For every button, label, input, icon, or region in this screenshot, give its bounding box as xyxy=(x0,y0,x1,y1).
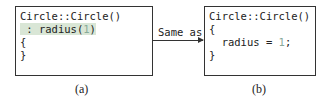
code-line: } xyxy=(209,49,311,62)
code-box-b: Circle::Circle() { radius = 1; } xyxy=(204,6,316,76)
code-text: ) xyxy=(90,23,96,35)
code-line: } xyxy=(20,49,148,62)
code-line: Circle::Circle() xyxy=(209,10,311,23)
code-text: : radius( xyxy=(20,23,83,35)
caption-b: (b) xyxy=(252,82,266,97)
code-line-assignment: radius = 1; xyxy=(209,36,311,49)
arrow-line xyxy=(153,40,203,41)
code-text: radius = xyxy=(209,36,279,48)
code-text: ; xyxy=(285,36,291,48)
arrow-label: Same as xyxy=(158,26,202,38)
code-line-initializer: : radius(1) xyxy=(20,23,148,36)
code-line: { xyxy=(20,36,148,49)
code-line: { xyxy=(209,23,311,36)
initializer-highlight: : radius(1) xyxy=(20,23,96,35)
caption-a: (a) xyxy=(75,82,88,97)
code-line: Circle::Circle() xyxy=(20,10,148,23)
code-box-a: Circle::Circle() : radius(1) { } xyxy=(15,6,153,76)
